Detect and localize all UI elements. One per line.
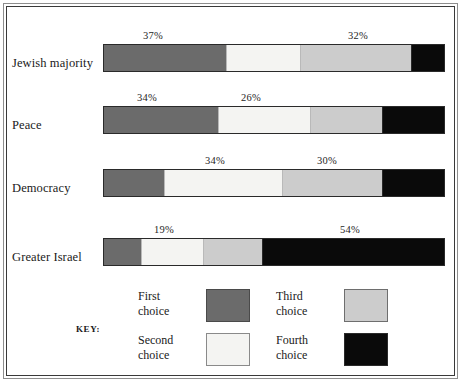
value-label-jewish-majority-third: 32% [348, 30, 368, 41]
value-label-greater-israel-second: 19% [154, 224, 174, 235]
legend-item-second-choice: Second choice [138, 332, 268, 372]
bar-segment-first-choice [104, 107, 218, 133]
bar-segment-first-choice [104, 239, 141, 265]
bar-greater-israel [103, 238, 445, 266]
legend-swatch-first-choice [206, 289, 250, 322]
legend-label-line2: choice [276, 348, 307, 362]
legend-label-line2: choice [138, 304, 169, 318]
value-label-peace-second: 26% [241, 92, 261, 103]
bar-segment-fourth-choice [382, 170, 444, 196]
legend-item-fourth-choice: Fourth choice [276, 332, 406, 372]
bar-segment-second-choice [226, 45, 299, 71]
legend-item-first-choice: First choice [138, 288, 268, 328]
legend-items: First choice Third choice Second choice [138, 288, 406, 370]
value-label-peace-first: 34% [137, 92, 157, 103]
legend-label-line1: Second [138, 333, 173, 347]
legend-label-second-choice: Second choice [138, 333, 200, 363]
legend-item-third-choice: Third choice [276, 288, 406, 328]
legend-label-line1: Fourth [276, 333, 308, 347]
legend-label-line2: choice [276, 304, 307, 318]
chart-row-greater-israel: Greater Israel 19% 54% [0, 224, 461, 284]
bar-segment-fourth-choice [411, 45, 444, 71]
value-label-greater-israel-fourth: 54% [340, 224, 360, 235]
bar-segment-third-choice [310, 107, 382, 133]
value-label-jewish-majority-first: 37% [143, 30, 163, 41]
value-label-democracy-second: 34% [205, 155, 225, 166]
chart-figure: Jewish majority 37% 32% Peace 34% 26% [0, 0, 461, 382]
legend-label-line1: First [138, 289, 160, 303]
legend-swatch-fourth-choice [344, 333, 388, 366]
value-label-democracy-third: 30% [317, 155, 337, 166]
bar-segment-second-choice [164, 170, 282, 196]
chart-row-democracy: Democracy 34% 30% [0, 155, 461, 215]
legend-label-third-choice: Third choice [276, 289, 338, 319]
chart-legend: KEY: First choice Third choice Second [76, 288, 406, 370]
bar-segment-third-choice [282, 170, 382, 196]
chart-row-peace: Peace 34% 26% [0, 92, 461, 152]
legend-label-fourth-choice: Fourth choice [276, 333, 338, 363]
row-label-jewish-majority: Jewish majority [12, 56, 98, 70]
legend-label-first-choice: First choice [138, 289, 200, 319]
bar-segment-third-choice [300, 45, 411, 71]
bar-segment-first-choice [104, 45, 226, 71]
bar-segment-second-choice [218, 107, 309, 133]
legend-swatch-third-choice [344, 289, 388, 322]
bar-segment-third-choice [203, 239, 262, 265]
bar-jewish-majority [103, 44, 445, 72]
legend-key-label: KEY: [76, 324, 100, 334]
bar-democracy [103, 169, 445, 197]
bar-segment-fourth-choice [262, 239, 444, 265]
legend-swatch-second-choice [206, 333, 250, 366]
row-label-peace: Peace [12, 118, 98, 132]
row-label-democracy: Democracy [12, 181, 98, 195]
chart-row-jewish-majority: Jewish majority 37% 32% [0, 30, 461, 90]
bar-peace [103, 106, 445, 134]
legend-label-line1: Third [276, 289, 303, 303]
bar-segment-fourth-choice [382, 107, 444, 133]
bar-segment-first-choice [104, 170, 164, 196]
bar-segment-second-choice [141, 239, 204, 265]
legend-label-line2: choice [138, 348, 169, 362]
row-label-greater-israel: Greater Israel [12, 250, 98, 264]
